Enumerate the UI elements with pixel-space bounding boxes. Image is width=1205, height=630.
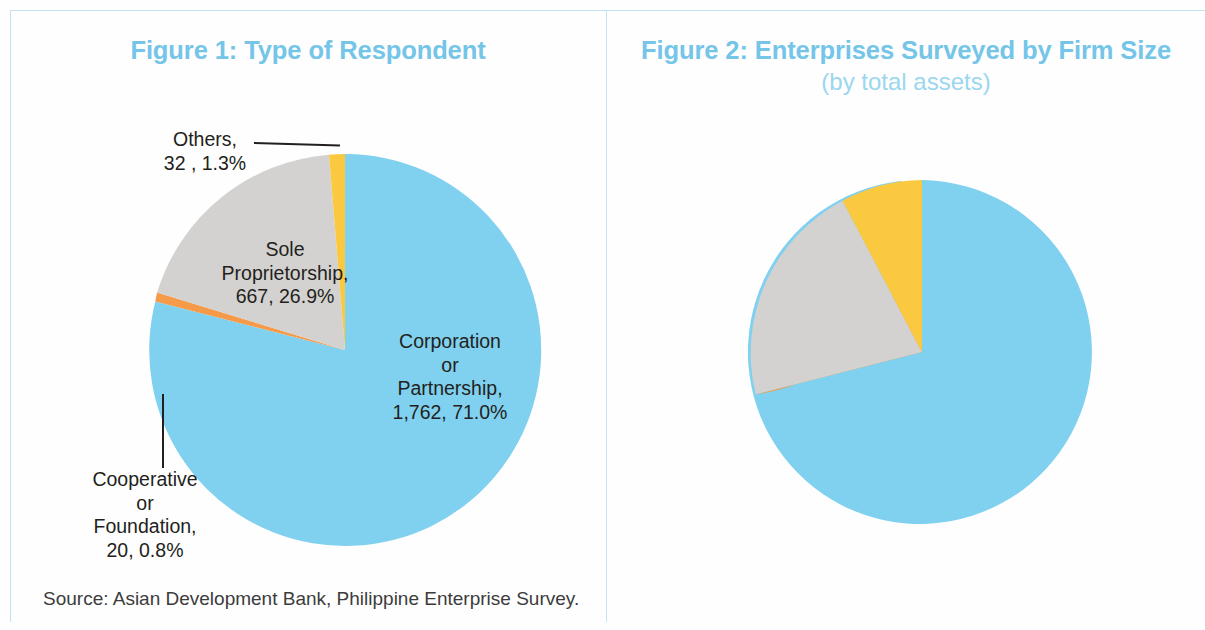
pie-2-svg — [748, 178, 1096, 526]
leader-line-cooperative — [162, 394, 164, 468]
figure-1-title: Figure 1: Type of Respondent — [10, 36, 606, 65]
figure-2-subtitle: (by total assets) — [607, 68, 1205, 96]
pie-1-label-corporation: Corporation or Partnership, 1,762, 71.0% — [355, 330, 545, 424]
figure-2-panel: Figure 2: Enterprises Surveyed by Firm S… — [607, 0, 1205, 630]
figure-2-title: Figure 2: Enterprises Surveyed by Firm S… — [607, 36, 1205, 65]
figure-1-panel: Figure 1: Type of Respondent Others, 32 … — [10, 0, 606, 630]
figure-2-pie-chart — [748, 178, 1096, 526]
pie-1-label-sole-proprietorship: Sole Proprietorship, 667, 26.9% — [185, 238, 385, 309]
figure-1-source: Source: Asian Development Bank, Philippi… — [43, 588, 579, 610]
figures-page: Figure 1: Type of Respondent Others, 32 … — [0, 0, 1205, 630]
pie-1-label-others: Others, 32 , 1.3% — [140, 128, 270, 175]
pie-1-label-cooperative: Cooperative or Foundation, 20, 0.8% — [65, 468, 225, 562]
